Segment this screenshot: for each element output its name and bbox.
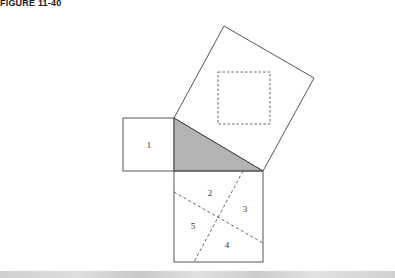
piece-label-3: 3 bbox=[243, 204, 248, 214]
page-bottom-band bbox=[0, 271, 395, 278]
dashed-cut-line-a bbox=[194, 171, 243, 262]
pythagorean-dissection-diagram: 1 2 3 5 4 bbox=[0, 0, 395, 278]
inner-dashed-square bbox=[218, 72, 270, 124]
piece-label-5: 5 bbox=[191, 221, 196, 231]
piece-label-4: 4 bbox=[225, 240, 230, 250]
dashed-cut-line-b bbox=[174, 192, 263, 243]
piece-label-2: 2 bbox=[208, 188, 213, 198]
piece-label-1: 1 bbox=[147, 140, 152, 150]
right-triangle bbox=[174, 118, 263, 171]
